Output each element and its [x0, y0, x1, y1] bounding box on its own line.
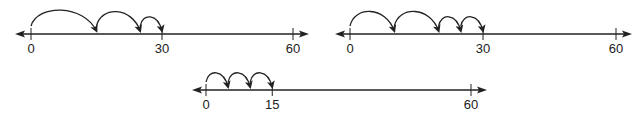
jump-arc — [97, 12, 141, 31]
tick-label: 60 — [609, 41, 623, 56]
tick-label: 0 — [27, 41, 34, 56]
jump-arc — [394, 11, 438, 31]
jump-arc — [206, 73, 228, 87]
tick-label: 30 — [476, 41, 490, 56]
jump-arc — [250, 73, 272, 87]
jump-arc — [350, 11, 394, 31]
tick-label: 60 — [464, 97, 478, 112]
tick-label: 15 — [265, 97, 279, 112]
jump-arc — [461, 17, 483, 31]
tick-label: 0 — [202, 97, 209, 112]
tick-label: 0 — [346, 41, 353, 56]
number-line-1: 03060 — [15, 10, 309, 56]
tick-label: 30 — [155, 41, 169, 56]
number-lines-figure: 03060 03060 01560 — [0, 0, 643, 119]
jump-arc — [31, 10, 97, 31]
number-line-3: 01560 — [192, 73, 487, 112]
jump-arc — [228, 73, 250, 87]
tick-label: 60 — [286, 41, 300, 56]
jump-arc — [140, 17, 162, 31]
number-line-2: 03060 — [335, 11, 632, 56]
jump-arc — [439, 17, 461, 31]
